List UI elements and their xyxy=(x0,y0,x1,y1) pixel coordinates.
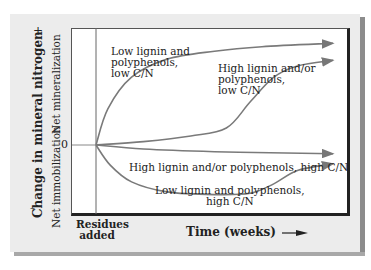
x-axis-arrowhead-icon xyxy=(296,230,308,236)
series-label-1: Low lignin and polyphenols, low C/N xyxy=(111,46,190,79)
y-sign-top: + xyxy=(33,26,43,37)
series-line-3 xyxy=(96,145,333,154)
series-label-2: High lignin and/or polyphenols, low C/N xyxy=(218,63,316,96)
x-axis-label: Time (weeks) xyxy=(186,227,276,238)
series-label-4: Low lignin and polyphenols, high C/N xyxy=(155,185,305,207)
y-zero-label: 0 xyxy=(61,139,68,150)
y-sublabel-positive: Net mineralization xyxy=(50,34,62,134)
series-label-3: High lignin and/or polyphenols, high C/N xyxy=(129,162,348,173)
residues-label-line: added xyxy=(76,230,118,241)
residues-added-label: Residuesadded xyxy=(76,219,118,241)
residues-added-text: Residuesadded xyxy=(76,219,118,241)
y-axis-label: Change in mineral nitrogen xyxy=(31,31,45,218)
y-sign-bottom: – xyxy=(30,202,35,213)
